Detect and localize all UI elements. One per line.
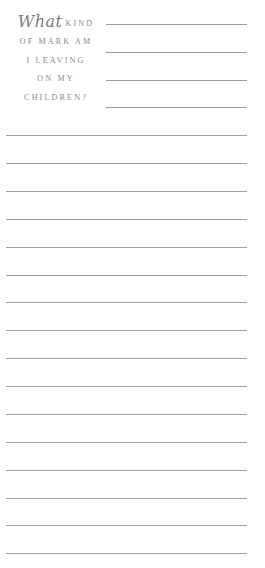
writing-line xyxy=(6,247,247,248)
writing-line xyxy=(6,135,247,136)
writing-line xyxy=(6,302,247,303)
writing-line-short xyxy=(106,80,247,81)
writing-line-short xyxy=(106,52,247,53)
heading-row-3: I LEAVING xyxy=(8,52,104,70)
writing-line xyxy=(6,275,247,276)
writing-line xyxy=(6,414,247,415)
writing-line xyxy=(6,525,247,526)
writing-line xyxy=(6,330,247,331)
writing-line xyxy=(6,470,247,471)
heading-row-1-text: KIND xyxy=(65,19,94,28)
writing-line xyxy=(6,163,247,164)
prompt-heading: WhatKIND OF MARK AM I LEAVING ON MY CHIL… xyxy=(8,13,104,107)
writing-line xyxy=(6,191,247,192)
writing-line xyxy=(6,442,247,443)
heading-row-5: CHILDREN? xyxy=(8,89,104,107)
writing-line xyxy=(6,553,247,554)
writing-line xyxy=(6,386,247,387)
heading-script-word: What xyxy=(18,12,63,31)
writing-line xyxy=(6,498,247,499)
writing-line-short xyxy=(106,107,247,108)
writing-line xyxy=(6,219,247,220)
heading-row-2: OF MARK AM xyxy=(8,33,104,51)
heading-row-1: WhatKIND xyxy=(8,13,104,33)
writing-line xyxy=(6,358,247,359)
heading-row-4: ON MY xyxy=(8,70,104,88)
writing-line-short xyxy=(106,24,247,25)
